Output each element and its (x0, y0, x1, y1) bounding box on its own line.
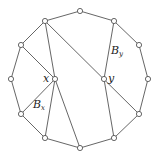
label-x: x (43, 73, 49, 84)
edges (11, 11, 148, 148)
graph-diagram: x y Bx By (0, 0, 163, 161)
label-Bx: Bx (33, 99, 45, 112)
label-Bx-sub: x (41, 104, 45, 112)
label-Bx-main: B (33, 98, 41, 111)
label-By-sub: y (119, 50, 123, 58)
label-y: y (108, 73, 114, 84)
label-By-main: B (111, 44, 119, 57)
graph-svg (0, 0, 163, 161)
label-By: By (111, 45, 123, 58)
vertices (8, 8, 150, 150)
